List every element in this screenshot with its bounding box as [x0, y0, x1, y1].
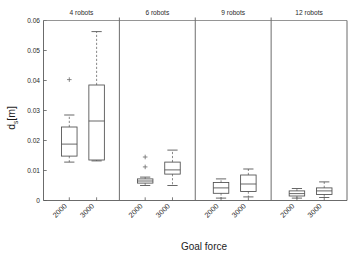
- panel-title-group: 4 robots6 robots9 robots12 robots: [70, 9, 324, 16]
- x-axis-title: Goal force: [181, 241, 228, 252]
- y-tick-label: 0.04: [27, 77, 40, 84]
- x-tick-label-group: 3000: [78, 202, 96, 220]
- x-tick-label: 2000: [127, 202, 145, 220]
- boxplot-item: [213, 179, 229, 198]
- x-tick-label: 3000: [154, 202, 172, 220]
- y-tick-label: 0.01: [27, 167, 40, 174]
- y-axis-label-text: ds[m]: [5, 106, 19, 130]
- box-iqr: [165, 162, 181, 174]
- x-tick-label: 2000: [202, 202, 220, 220]
- boxplot-item: [137, 155, 153, 186]
- x-tick-label: 3000: [230, 202, 248, 220]
- outlier-marker: [67, 77, 72, 82]
- x-tick-label-group: 3000: [154, 202, 172, 220]
- y-tick-label: 0.02: [27, 137, 40, 144]
- y-tick-label: 0: [36, 197, 40, 204]
- boxplot-item: [165, 150, 181, 185]
- panel-title-4: 12 robots: [295, 9, 323, 16]
- y-tick-label: 0.05: [27, 47, 40, 54]
- x-tick-label-group: 3000: [306, 202, 324, 220]
- panel-title-3: 9 robots: [221, 9, 246, 16]
- y-axis-label-unit: [m]: [5, 106, 17, 121]
- x-tick-label-group: 2000: [51, 202, 69, 220]
- x-tick-label-group: 2000: [127, 202, 145, 220]
- x-tick-label-group: 3000: [230, 202, 248, 220]
- outlier-marker: [143, 155, 148, 160]
- boxplot-series-group: [62, 32, 332, 199]
- chart-canvas: 4 robots6 robots9 robots12 robots 00.010…: [0, 0, 359, 259]
- boxplot-item: [62, 77, 78, 162]
- y-tick-label: 0.06: [27, 17, 40, 24]
- x-tick-label: 3000: [78, 202, 96, 220]
- outlier-marker: [143, 165, 148, 170]
- box-iqr: [89, 85, 105, 160]
- x-tick-label: 2000: [51, 202, 69, 220]
- y-axis-label: ds[m]: [5, 106, 19, 130]
- box-iqr: [62, 127, 78, 156]
- x-tick-label: 2000: [278, 202, 296, 220]
- y-tick-label: 0.03: [27, 107, 40, 114]
- box-iqr: [241, 175, 256, 192]
- x-tick-label: 3000: [306, 202, 324, 220]
- boxplot-item: [89, 32, 105, 161]
- panel-title-1: 4 robots: [70, 9, 95, 16]
- panel-title-2: 6 robots: [145, 9, 170, 16]
- x-tick-label-group: 2000: [202, 202, 220, 220]
- x-tick-label-group: 2000: [278, 202, 296, 220]
- boxplot-item: [316, 182, 332, 198]
- boxplot-item: [289, 189, 305, 199]
- boxplot-figure: 4 robots6 robots9 robots12 robots 00.010…: [0, 0, 359, 259]
- boxplot-item: [241, 169, 256, 197]
